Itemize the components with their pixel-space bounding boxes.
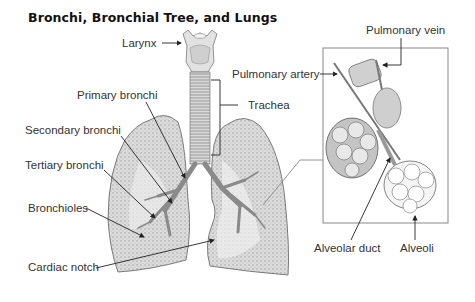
lungs-illustration — [0, 0, 475, 302]
label-trachea: Trachea — [248, 99, 290, 112]
label-alveoli: Alveoli — [400, 242, 434, 255]
label-cardiac-notch: Cardiac notch — [28, 261, 99, 274]
label-alveolar-duct: Alveolar duct — [314, 242, 380, 255]
label-secondary-bronchi: Secondary bronchi — [25, 124, 121, 137]
label-bronchioles: Bronchioles — [28, 202, 88, 215]
trachea — [190, 72, 210, 164]
larynx — [183, 30, 217, 72]
label-larynx: Larynx — [122, 37, 157, 50]
label-primary-bronchi: Primary bronchi — [77, 89, 158, 102]
label-pulmonary-vein: Pulmonary vein — [366, 24, 445, 37]
label-pulmonary-artery: Pulmonary artery — [232, 68, 320, 81]
label-tertiary-bronchi: Tertiary bronchi — [25, 159, 104, 172]
